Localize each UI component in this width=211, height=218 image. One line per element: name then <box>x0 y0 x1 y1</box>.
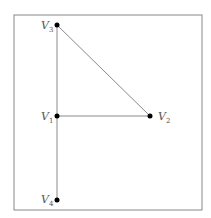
node-v2 <box>148 114 153 119</box>
graph-diagram: V3 V1 V2 V4 <box>0 0 211 218</box>
node-v3 <box>55 23 60 28</box>
label-v3: V3 <box>41 19 53 34</box>
node-v1 <box>55 114 60 119</box>
label-v2: V2 <box>158 110 170 125</box>
edge-v3-v2 <box>57 25 150 116</box>
node-v4 <box>55 198 60 203</box>
label-v4: V4 <box>41 193 54 208</box>
label-v1: V1 <box>41 110 53 125</box>
